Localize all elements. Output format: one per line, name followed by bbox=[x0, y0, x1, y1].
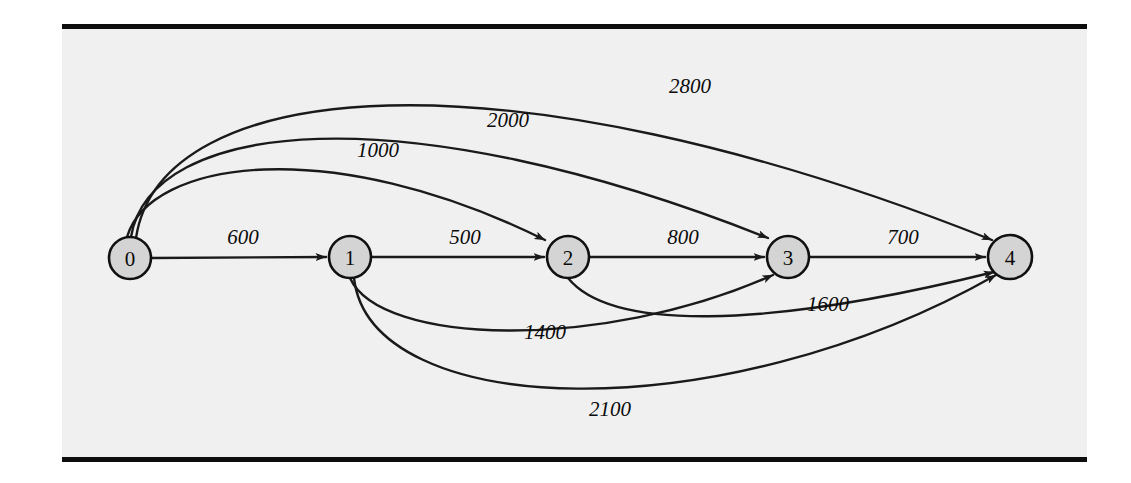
edge-label-0-2: 1000 bbox=[357, 138, 400, 162]
node-0[interactable]: 0 bbox=[109, 237, 151, 279]
edge-0-3 bbox=[131, 139, 768, 238]
node-2[interactable]: 2 bbox=[547, 236, 589, 278]
node-3[interactable]: 3 bbox=[767, 236, 809, 278]
edge-label-2-3: 800 bbox=[667, 225, 699, 249]
node-2-label: 2 bbox=[563, 246, 574, 270]
edge-label-1-4: 2100 bbox=[589, 397, 632, 421]
edge-label-0-4: 2800 bbox=[669, 74, 712, 98]
edge-0-4 bbox=[136, 105, 992, 240]
edge-label-1-3: 1400 bbox=[524, 320, 567, 344]
graph-canvas: 600 500 800 700 1000 2000 2800 1400 1600… bbox=[0, 0, 1131, 483]
figure-root: 600 500 800 700 1000 2000 2800 1400 1600… bbox=[0, 0, 1131, 483]
edge-label-1-2: 500 bbox=[449, 225, 481, 249]
edge-label-3-4: 700 bbox=[887, 225, 919, 249]
node-4-label: 4 bbox=[1005, 246, 1016, 270]
edge-label-0-3: 2000 bbox=[487, 108, 530, 132]
node-0-label: 0 bbox=[125, 247, 136, 271]
node-3-label: 3 bbox=[783, 246, 794, 270]
node-4[interactable]: 4 bbox=[988, 235, 1032, 279]
edge-0-1 bbox=[151, 257, 326, 258]
edge-label-0-1: 600 bbox=[227, 225, 259, 249]
edge-0-2 bbox=[127, 169, 545, 240]
edge-label-2-4: 1600 bbox=[807, 292, 850, 316]
node-1[interactable]: 1 bbox=[329, 236, 371, 278]
node-1-label: 1 bbox=[345, 246, 356, 270]
